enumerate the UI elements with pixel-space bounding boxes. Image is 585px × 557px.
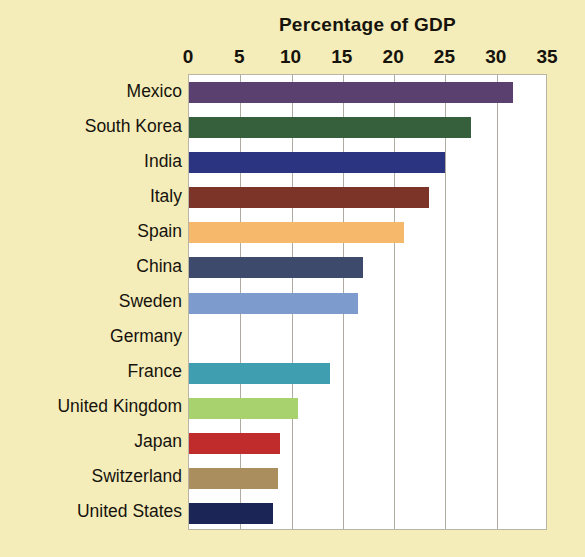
x-tick-label: 5 (234, 46, 245, 68)
bar-row (189, 363, 546, 384)
bar-row (189, 82, 546, 103)
gdp-bar-chart: Percentage of GDP 05101520253035 MexicoS… (0, 0, 585, 557)
x-tick-label: 0 (183, 46, 194, 68)
bar (189, 152, 445, 173)
plot-area (188, 74, 547, 530)
category-label: Germany (0, 326, 182, 347)
bars-layer (189, 75, 546, 529)
bar (189, 503, 273, 524)
bar-row (189, 328, 546, 349)
category-label: Mexico (0, 81, 182, 102)
bar (189, 328, 348, 349)
x-tick-label: 10 (280, 46, 301, 68)
bar (189, 293, 358, 314)
x-tick-label: 15 (331, 46, 352, 68)
bar-row (189, 187, 546, 208)
bar (189, 398, 298, 419)
bar-row (189, 257, 546, 278)
x-tick-label: 20 (383, 46, 404, 68)
chart-title: Percentage of GDP (188, 14, 547, 36)
x-tick-label: 35 (536, 46, 557, 68)
category-label: France (0, 361, 182, 382)
category-label: Sweden (0, 291, 182, 312)
bar-row (189, 433, 546, 454)
category-label: South Korea (0, 116, 182, 137)
bar (189, 468, 278, 489)
bar (189, 117, 471, 138)
bar (189, 187, 429, 208)
x-tick-label: 30 (485, 46, 506, 68)
bar (189, 82, 513, 103)
category-label: India (0, 151, 182, 172)
bar-row (189, 468, 546, 489)
category-label: Spain (0, 221, 182, 242)
bar (189, 257, 363, 278)
bar-row (189, 398, 546, 419)
bar-row (189, 293, 546, 314)
bar-row (189, 152, 546, 173)
category-label: Italy (0, 186, 182, 207)
x-tick-label: 25 (434, 46, 455, 68)
category-label: Japan (0, 431, 182, 452)
bar-row (189, 117, 546, 138)
category-label: United Kingdom (0, 396, 182, 417)
bar (189, 363, 330, 384)
bar (189, 433, 280, 454)
category-label: United States (0, 501, 182, 522)
bar-row (189, 222, 546, 243)
category-label: Switzerland (0, 466, 182, 487)
bar-row (189, 503, 546, 524)
category-label: China (0, 256, 182, 277)
bar (189, 222, 404, 243)
x-axis-tick-labels: 05101520253035 (0, 46, 585, 70)
category-axis-labels: MexicoSouth KoreaIndiaItalySpainChinaSwe… (0, 74, 182, 530)
